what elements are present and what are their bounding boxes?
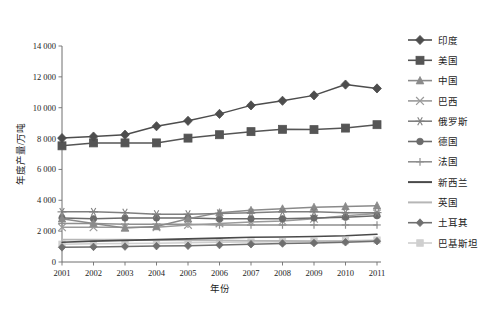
data-point-square xyxy=(279,125,287,133)
y-tick-label: 8 000 xyxy=(37,134,56,144)
data-point-circle xyxy=(311,215,317,221)
legend-item-法国[interactable]: 法国 xyxy=(404,154,490,170)
legend-item-俄罗斯[interactable]: 俄罗斯 xyxy=(404,113,490,129)
y-tick-label: 0 xyxy=(52,257,56,267)
legend-label-英国: 英国 xyxy=(438,197,458,208)
legend-label-新西兰: 新西兰 xyxy=(438,177,468,188)
data-point-square xyxy=(342,124,350,132)
legend-item-新西兰[interactable]: 新西兰 xyxy=(404,174,490,190)
data-point-circle xyxy=(417,138,424,145)
legend-item-土耳其[interactable]: 土耳其 xyxy=(404,215,490,231)
x-tick-label: 2010 xyxy=(337,268,354,278)
x-tick-label: 2008 xyxy=(274,268,291,278)
legend-item-巴基斯坦[interactable]: 巴基斯坦 xyxy=(404,235,490,251)
y-tick-label: 4 000 xyxy=(37,195,56,205)
x-tick-label: 2006 xyxy=(211,268,228,278)
data-point-square xyxy=(417,240,424,247)
data-point-square xyxy=(216,131,224,139)
y-tick-label: 12 000 xyxy=(33,72,56,82)
legend-label-法国: 法国 xyxy=(438,156,458,167)
legend-item-巴西[interactable]: 巴西 xyxy=(404,93,490,109)
legend-item-德国[interactable]: 德国 xyxy=(404,134,490,150)
data-point-circle xyxy=(248,216,254,222)
y-axis-title: 年度产量/万吨 xyxy=(15,123,26,186)
legend-label-美国: 美国 xyxy=(438,55,458,66)
legend-label-德国: 德国 xyxy=(438,136,458,147)
data-point-square xyxy=(310,126,318,134)
x-tick-label: 2001 xyxy=(54,268,71,278)
data-point-square xyxy=(153,139,161,147)
legend-item-英国[interactable]: 英国 xyxy=(404,194,490,210)
data-point-circle xyxy=(279,216,285,222)
legend-item-中国[interactable]: 中国 xyxy=(404,73,490,89)
line-chart: 02 0004 0006 0008 00010 00012 00014 000 … xyxy=(0,0,497,311)
legend-label-巴基斯坦: 巴基斯坦 xyxy=(438,238,478,249)
data-point-circle xyxy=(342,214,348,220)
x-tick-label: 2004 xyxy=(148,268,166,278)
x-tick-label: 2011 xyxy=(369,268,386,278)
y-tick-label: 10 000 xyxy=(33,103,56,113)
data-point-square xyxy=(373,121,381,129)
x-axis-title: 年份 xyxy=(210,283,230,294)
x-tick-label: 2005 xyxy=(180,268,197,278)
legend-item-美国[interactable]: 美国 xyxy=(404,52,490,68)
x-tick-label: 2007 xyxy=(243,268,260,278)
data-point-square xyxy=(184,134,192,142)
data-point-square xyxy=(416,56,424,64)
y-tick-label: 2 000 xyxy=(37,226,56,236)
y-tick-label: 6 000 xyxy=(37,164,56,174)
data-point-square xyxy=(121,139,129,147)
legend-label-土耳其: 土耳其 xyxy=(438,217,468,228)
legend-label-俄罗斯: 俄罗斯 xyxy=(438,116,468,127)
chart-legend: 印度美国中国巴西俄罗斯德国法国新西兰英国土耳其巴基斯坦 xyxy=(404,32,490,251)
legend-label-印度: 印度 xyxy=(438,35,458,46)
x-tick-label: 2009 xyxy=(306,268,323,278)
legend-item-印度[interactable]: 印度 xyxy=(404,32,490,48)
legend-label-中国: 中国 xyxy=(438,75,458,86)
legend-label-巴西: 巴西 xyxy=(438,97,458,107)
y-tick-label: 14 000 xyxy=(33,41,56,51)
x-tick-label: 2002 xyxy=(85,268,102,278)
x-tick-label: 2003 xyxy=(117,268,134,278)
data-point-square xyxy=(247,128,255,136)
